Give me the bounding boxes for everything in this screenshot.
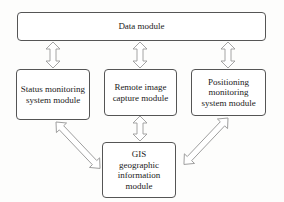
- double-arrow-icon: [221, 42, 235, 68]
- positioning-monitoring-module-box: Positioning monitoring system module: [191, 69, 266, 116]
- data-module-box: Data module: [17, 12, 266, 41]
- positioning-monitoring-module-label: Positioning monitoring system module: [195, 77, 262, 109]
- remote-image-capture-module-label: Remote image capture module: [111, 82, 170, 103]
- double-arrow-icon: [133, 116, 147, 141]
- status-monitoring-module-box: Status monitoring system module: [16, 69, 90, 120]
- status-monitoring-module-label: Status monitoring system module: [20, 84, 86, 105]
- double-arrow-icon: [51, 117, 105, 173]
- remote-image-capture-module-box: Remote image capture module: [104, 69, 177, 116]
- double-arrow-icon: [133, 42, 147, 68]
- double-arrow-icon: [46, 42, 60, 68]
- data-module-label: Data module: [118, 21, 164, 32]
- gis-module-box: GIS geographic information module: [102, 142, 176, 198]
- double-arrow-icon: [179, 113, 233, 169]
- gis-module-label: GIS geographic information module: [111, 149, 167, 191]
